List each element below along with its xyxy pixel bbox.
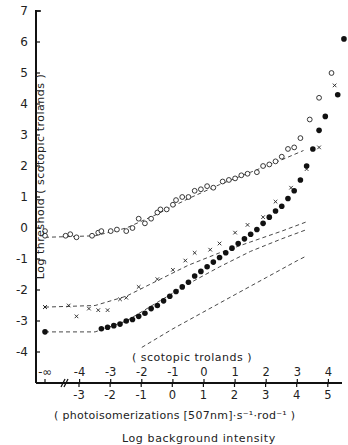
data-point-open-circle [273,159,278,164]
data-point-filled-circle [142,310,148,316]
data-point-filled-circle [105,324,111,330]
x-axis-scotopic-label: ( scotopic trolands ) [132,351,252,364]
data-point-cross [75,315,79,319]
y-tick-label: -4 [16,345,28,359]
data-point-open-circle [254,170,259,175]
data-point-filled-circle [186,279,192,285]
data-point-filled-circle [248,231,254,237]
data-point-cross [124,296,128,300]
data-point-open-circle [130,226,135,231]
data-point-filled-circle [298,177,304,183]
data-point-open-circle [180,195,185,200]
data-point-filled-circle [285,196,291,202]
y-tick-label: 7 [20,4,28,18]
data-point-open-circle [279,154,284,159]
y-tick-label: -2 [16,283,28,297]
y-tick-label: 3 [20,128,28,142]
data-point-filled-circle [229,245,235,251]
data-point-filled-circle [242,236,248,242]
data-point-filled-circle [155,303,161,309]
data-point-cross [274,200,278,204]
x-tick-photoisomerization: 5 [324,388,331,402]
x-tick-scotopic: -3 [105,365,116,379]
data-point-cross [218,242,222,246]
data-point-filled-circle [335,92,341,98]
data-point-cross [246,223,250,227]
data-point-filled-circle [254,227,260,233]
data-point-filled-circle [273,208,279,214]
data-point-filled-circle [167,293,173,299]
data-point-cross [193,251,197,255]
data-point-filled-circle [117,321,123,327]
data-point-filled-circle [173,289,179,295]
data-point-cross [118,298,122,302]
data-point-open-circle [124,229,129,234]
x-tick-scotopic: -4 [74,365,85,379]
data-point-cross [87,307,91,311]
x-axis-photoisomerization-label: ( photoisomerizations [507nm]·s⁻¹·rod⁻¹ … [54,409,295,422]
data-point-filled-circle [291,188,297,194]
data-point-filled-circle [161,298,167,304]
x-tick-photoisomerization: 3 [262,388,269,402]
x-tick-scotopic: -∞ [38,365,52,379]
data-point-open-circle [115,227,120,232]
data-point-filled-circle [179,284,185,290]
x-tick-scotopic: 2 [263,365,270,379]
data-point-filled-circle [123,318,129,324]
data-point-open-circle [298,136,303,141]
data-point-open-circle [90,233,95,238]
data-point-cross [171,268,175,272]
data-point-open-circle [186,195,191,200]
data-point-filled-circle [130,317,136,323]
data-point-filled-circle [260,221,266,227]
x-axis-title: Log background intensity [122,432,276,445]
y-tick-label: 4 [20,97,28,111]
y-tick-label: -1 [16,252,28,266]
data-point-open-circle [261,164,266,169]
y-tick-label: 0 [20,221,28,235]
data-point-open-circle [158,207,163,212]
data-point-cross [137,285,141,289]
data-point-open-circle [307,117,312,122]
x-tick-scotopic: 1 [231,365,238,379]
data-point-filled-circle [316,128,322,134]
data-point-filled-circle [223,250,229,256]
data-point-open-circle [233,176,238,181]
data-point-open-circle [192,188,197,193]
y-tick-label: 2 [20,159,28,173]
data-point-open-circle [245,171,250,176]
data-point-cross [333,84,337,88]
data-point-cross [261,215,265,219]
data-point-filled-circle [341,36,347,42]
data-point-cross [317,146,321,150]
data-point-open-circle [136,216,141,221]
x-tick-photoisomerization: 0 [169,388,176,402]
data-point-filled-circle [217,255,223,261]
x-tick-scotopic: 0 [200,365,207,379]
data-point-filled-circle [279,204,285,210]
data-point-open-circle [286,147,291,152]
data-point-filled-circle [310,146,316,152]
data-point-open-circle [220,179,225,184]
data-point-cross [208,248,212,252]
data-point-open-circle [74,235,79,240]
data-point-filled-circle [267,214,273,220]
data-point-open-circle [174,198,179,203]
data-point-open-circle [68,232,73,237]
data-point-open-circle [226,178,231,183]
data-point-filled-circle [322,114,328,120]
data-point-filled-circle [211,259,217,265]
x-tick-scotopic: -2 [136,365,147,379]
data-point-filled-circle [99,326,105,332]
data-point-filled-circle [148,306,154,312]
data-point-open-circle [317,95,322,100]
x-tick-photoisomerization: 4 [293,388,300,402]
data-point-open-circle [63,233,68,238]
y-tick-label: 5 [20,66,28,80]
x-tick-photoisomerization: -2 [104,388,115,402]
data-point-open-circle [267,162,272,167]
data-point-cross [106,308,110,312]
data-point-filled-circle [192,273,198,279]
data-point-open-circle [171,202,176,207]
